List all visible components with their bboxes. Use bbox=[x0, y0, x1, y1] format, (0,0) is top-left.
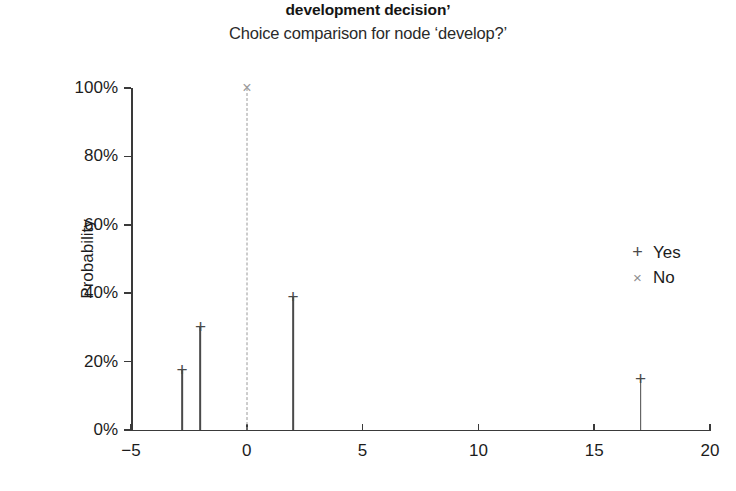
plus-data-marker: + bbox=[195, 318, 206, 337]
cross-marker-icon: × bbox=[628, 269, 647, 286]
legend-item-no: × No bbox=[628, 265, 681, 290]
x-tick-label: −5 bbox=[121, 441, 140, 461]
y-tick bbox=[124, 156, 131, 158]
y-tick bbox=[124, 292, 131, 294]
plot-area: ++++× bbox=[131, 88, 710, 430]
y-tick bbox=[124, 361, 131, 363]
x-tick-label: 5 bbox=[358, 441, 367, 461]
chart-legend: + Yes × No bbox=[628, 240, 681, 290]
plus-data-marker: + bbox=[635, 369, 646, 388]
y-tick-label: 40% bbox=[84, 283, 118, 303]
x-tick-label: 15 bbox=[585, 441, 604, 461]
x-tick-label: 20 bbox=[701, 441, 720, 461]
chart-root: development decision’ Choice comparison … bbox=[0, 0, 736, 491]
stem-line bbox=[292, 297, 294, 430]
y-tick-label: 80% bbox=[84, 146, 118, 166]
legend-label-no: No bbox=[653, 268, 675, 288]
stem-line bbox=[200, 327, 202, 430]
y-tick-label: 60% bbox=[84, 215, 118, 235]
legend-label-yes: Yes bbox=[653, 243, 681, 263]
y-tick-label: 100% bbox=[75, 78, 118, 98]
y-tick bbox=[124, 87, 131, 89]
x-tick-label: 10 bbox=[469, 441, 488, 461]
y-tick-label: 0% bbox=[93, 420, 118, 440]
y-axis-tick-labels: 0%20%40%60%80%100% bbox=[30, 0, 118, 491]
cross-data-marker: × bbox=[242, 80, 251, 96]
stem-line bbox=[246, 88, 247, 430]
legend-item-yes: + Yes bbox=[628, 240, 681, 265]
plus-data-marker: + bbox=[176, 360, 187, 379]
plus-marker-icon: + bbox=[628, 242, 647, 263]
plus-data-marker: + bbox=[288, 287, 299, 306]
y-tick-label: 20% bbox=[84, 352, 118, 372]
x-tick-label: 0 bbox=[242, 441, 251, 461]
y-tick bbox=[124, 224, 131, 226]
